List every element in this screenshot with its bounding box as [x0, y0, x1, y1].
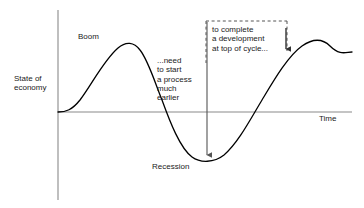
y-axis-label: State of economy — [14, 74, 46, 93]
need-to-start-callout: ...need to start a process much earlier — [157, 56, 192, 102]
recession-label: Recession — [152, 162, 189, 171]
diagram-canvas — [0, 0, 364, 208]
business-cycle-figure: State of economy Time Boom Recession ...… — [0, 0, 364, 208]
economic-cycle-curve — [58, 40, 352, 161]
x-axis-label: Time — [319, 114, 336, 123]
complete-development-callout: to complete a development at top of cycl… — [212, 25, 268, 53]
boom-label: Boom — [78, 32, 99, 41]
